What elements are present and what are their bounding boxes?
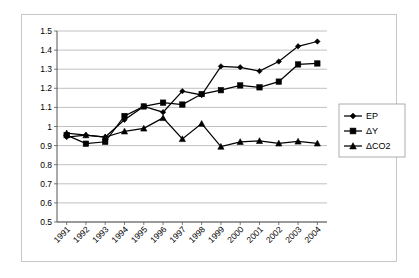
x-axis-tick-label: 1994 (109, 224, 130, 245)
data-point-marker (257, 85, 262, 90)
x-axis-tick-label: 2001 (244, 224, 265, 245)
x-axis-tick-label: 1997 (167, 224, 188, 245)
x-axis-tick-label: 1999 (206, 224, 227, 245)
data-point-marker (122, 113, 127, 118)
x-axis-tick-label: 2003 (283, 224, 304, 245)
x-axis-tick-label: 1992 (71, 224, 92, 245)
y-axis-tick-label: 0.6 (40, 198, 52, 208)
data-point-marker (160, 100, 165, 105)
legend: EPΔYΔCO2 (339, 104, 405, 157)
y-axis-tick-label: 1 (47, 122, 52, 132)
chart-figure: 0.50.60.70.80.911.11.21.31.41.5199119921… (0, 0, 419, 278)
data-point-marker (350, 128, 356, 134)
data-point-marker (218, 88, 223, 93)
data-point-marker (180, 102, 185, 107)
data-point-marker (315, 61, 320, 66)
x-axis-tick-label: 1996 (148, 224, 169, 245)
x-axis-tick-label: 2002 (264, 224, 285, 245)
data-point-marker (83, 141, 88, 146)
y-axis-tick-label: 0.7 (40, 179, 52, 189)
x-axis-tick-label: 1993 (90, 224, 111, 245)
data-point-marker (295, 62, 300, 67)
x-axis-tick-label: 2000 (225, 224, 246, 245)
data-point-marker (199, 91, 204, 96)
y-axis-tick-label: 1.3 (40, 64, 52, 74)
legend-label: ΔY (366, 126, 378, 136)
x-axis-tick-label: 1991 (52, 224, 73, 245)
y-axis-tick-label: 0.9 (40, 141, 52, 151)
x-axis-tick-label: 1998 (187, 224, 208, 245)
legend-label: EP (366, 111, 378, 121)
x-axis-tick-label: 2004 (302, 224, 323, 245)
legend-label: ΔCO2 (366, 141, 391, 151)
line-chart: 0.50.60.70.80.911.11.21.31.41.5199119921… (0, 0, 419, 278)
data-point-marker (276, 79, 281, 84)
y-axis-tick-label: 1.4 (40, 45, 52, 55)
x-axis-tick-label: 1995 (129, 224, 150, 245)
y-axis-tick-label: 1.2 (40, 83, 52, 93)
y-axis-tick-label: 0.8 (40, 160, 52, 170)
data-point-marker (238, 83, 243, 88)
y-axis-tick-label: 1.5 (40, 26, 52, 36)
data-point-marker (141, 104, 146, 109)
y-axis-tick-label: 1.1 (40, 102, 52, 112)
y-axis-tick-label: 0.5 (40, 217, 52, 227)
